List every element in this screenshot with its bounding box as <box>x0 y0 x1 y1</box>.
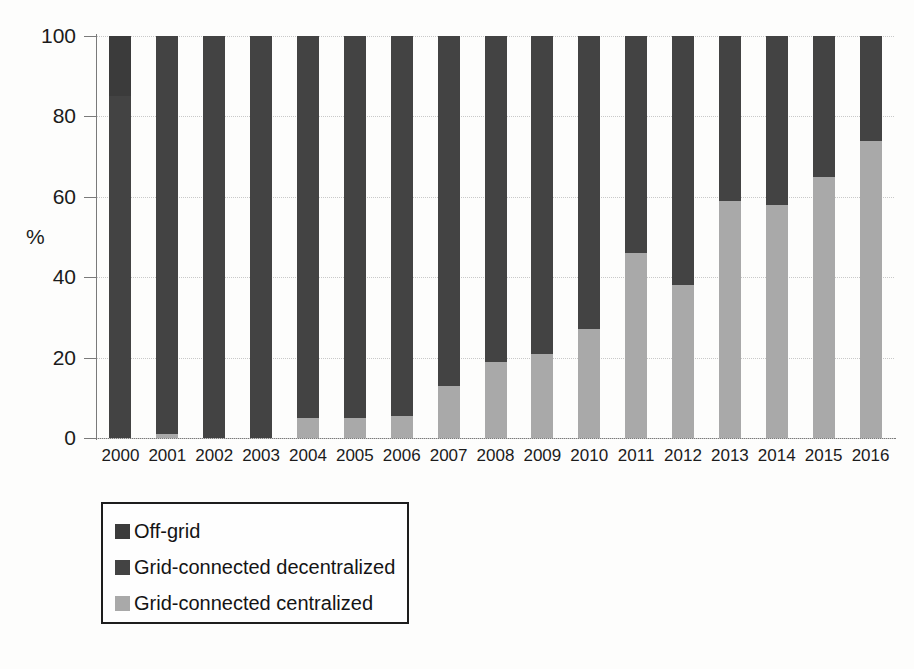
y-tick-label: 80 <box>30 105 76 126</box>
legend-item[interactable]: Off-grid <box>115 518 200 544</box>
bar-group <box>860 36 882 438</box>
bar-segment <box>156 36 178 434</box>
bar-segment <box>813 36 835 177</box>
bar-group <box>578 36 600 438</box>
bar-group <box>109 36 131 438</box>
bar-segment <box>578 329 600 438</box>
legend-item[interactable]: Grid-connected decentralized <box>115 554 395 580</box>
chart-figure: % 020406080100 2000200120022003200420052… <box>0 0 914 669</box>
bar-segment <box>250 36 272 438</box>
bar-group <box>391 36 413 438</box>
legend-label: Grid-connected decentralized <box>134 556 395 578</box>
bar-group <box>297 36 319 438</box>
bar-segment <box>391 36 413 416</box>
bar-segment <box>719 36 741 201</box>
y-tick-mark <box>84 277 97 278</box>
x-tick-label: 2012 <box>656 446 710 465</box>
bar-segment <box>438 386 460 438</box>
bar-segment <box>672 36 694 285</box>
bar-group <box>672 36 694 438</box>
legend-swatch-icon <box>115 560 130 575</box>
y-tick-label: 100 <box>30 25 76 46</box>
bar-group <box>531 36 553 438</box>
bar-group <box>766 36 788 438</box>
bar-segment <box>344 36 366 418</box>
x-tick-label: 2003 <box>234 446 288 465</box>
bar-segment <box>203 36 225 438</box>
legend-label: Grid-connected centralized <box>134 592 373 614</box>
x-tick-label: 2014 <box>750 446 804 465</box>
bar-segment <box>860 36 882 141</box>
bar-segment <box>297 36 319 418</box>
y-tick-label: 20 <box>30 347 76 368</box>
y-tick-label: 0 <box>30 427 76 448</box>
bar-group <box>719 36 741 438</box>
bar-segment <box>297 418 319 438</box>
bar-group <box>203 36 225 438</box>
x-tick-label: 2010 <box>562 446 616 465</box>
bar-segment <box>766 205 788 438</box>
gridline <box>97 438 894 439</box>
y-tick-mark <box>84 116 97 117</box>
bar-segment <box>860 141 882 438</box>
y-tick-label: 60 <box>30 186 76 207</box>
legend-swatch-icon <box>115 524 130 539</box>
bar-segment <box>578 36 600 329</box>
bar-segment <box>485 362 507 438</box>
bar-segment <box>719 201 741 438</box>
bar-segment <box>625 36 647 253</box>
bar-segment <box>672 285 694 438</box>
bar-group <box>625 36 647 438</box>
legend-swatch-icon <box>115 596 130 611</box>
bar-segment <box>485 36 507 362</box>
x-tick-label: 2016 <box>844 446 898 465</box>
bar-group <box>156 36 178 438</box>
x-tick-label: 2005 <box>328 446 382 465</box>
bar-group <box>813 36 835 438</box>
plot-area <box>97 36 894 438</box>
bar-group <box>250 36 272 438</box>
y-tick-label: 40 <box>30 266 76 287</box>
y-tick-mark <box>84 358 97 359</box>
y-tick-mark <box>84 438 97 439</box>
bar-group <box>438 36 460 438</box>
bar-segment <box>531 354 553 438</box>
y-tick-mark <box>84 36 97 37</box>
bar-group <box>485 36 507 438</box>
y-axis-label: % <box>26 225 45 249</box>
bar-segment <box>531 36 553 354</box>
bar-segment <box>813 177 835 438</box>
bar-segment <box>109 96 131 438</box>
x-tick-label: 2007 <box>422 446 476 465</box>
bar-segment <box>156 434 178 438</box>
bar-segment <box>766 36 788 205</box>
legend-label: Off-grid <box>134 520 200 542</box>
bar-segment <box>438 36 460 386</box>
y-tick-mark <box>84 197 97 198</box>
x-tick-label: 2001 <box>140 446 194 465</box>
chart-legend: Off-gridGrid-connected decentralizedGrid… <box>101 502 409 624</box>
bar-segment <box>109 36 131 96</box>
bar-segment <box>625 253 647 438</box>
legend-item[interactable]: Grid-connected centralized <box>115 590 373 616</box>
bar-segment <box>344 418 366 438</box>
bar-segment <box>391 416 413 438</box>
bar-group <box>344 36 366 438</box>
